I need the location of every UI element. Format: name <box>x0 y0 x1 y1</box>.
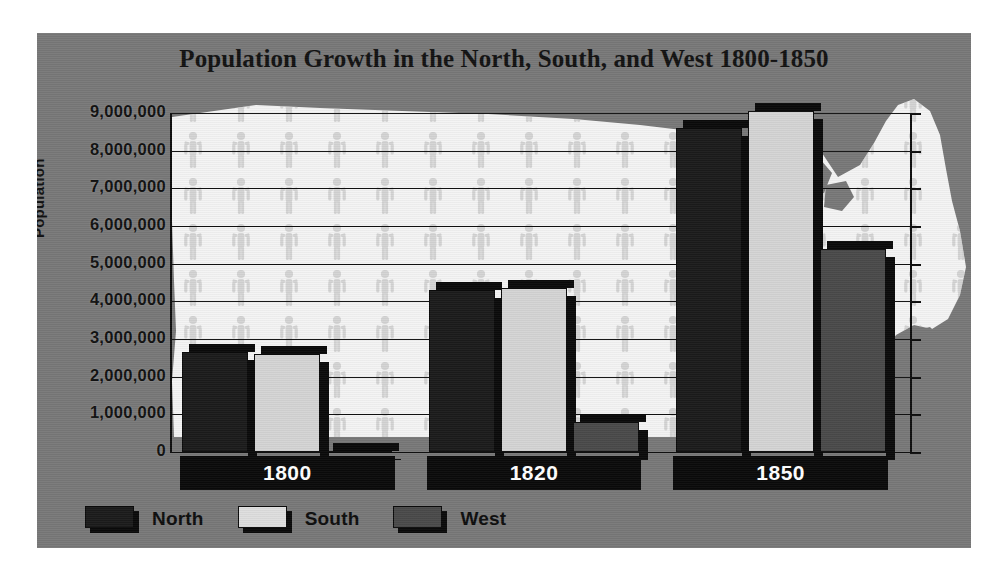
y-axis-tick-label: 0 <box>48 441 166 460</box>
bar-top-face <box>683 120 749 128</box>
y-axis-tick-label: 5,000,000 <box>48 253 166 272</box>
bar-west-1800 <box>326 451 392 452</box>
legend-item-north[interactable]: North <box>85 506 204 533</box>
bar-west-1820 <box>573 422 639 452</box>
y-axis-tick-label: 7,000,000 <box>48 177 166 196</box>
axis-tick <box>910 188 921 190</box>
legend-label: North <box>152 508 204 530</box>
south-swatch <box>238 506 292 533</box>
axis-tick <box>910 113 921 115</box>
chart-panel: Population Growth in the North, South, a… <box>37 33 971 548</box>
category-label-1820: 1820 <box>427 456 642 490</box>
bar-front-face <box>501 288 567 452</box>
bar-side-face <box>320 362 329 460</box>
bar-front-face <box>326 451 392 453</box>
west-swatch <box>393 506 447 533</box>
axis-tick <box>910 301 921 303</box>
axis-tick <box>910 377 921 379</box>
bar-front-face <box>820 249 886 452</box>
y-axis-tick-label: 3,000,000 <box>48 328 166 347</box>
north-swatch <box>85 506 139 533</box>
chart-title: Population Growth in the North, South, a… <box>37 45 971 73</box>
y-axis-tick-labels: 9,000,0008,000,0007,000,0006,000,0005,00… <box>42 113 166 452</box>
axis-tick <box>910 264 921 266</box>
bar-front-face <box>573 422 639 452</box>
y-axis-tick-label: 6,000,000 <box>48 215 166 234</box>
bar-top-face <box>580 414 646 422</box>
legend-label: South <box>305 508 360 530</box>
legend-item-west[interactable]: West <box>393 506 506 533</box>
bar-group <box>170 113 910 452</box>
bar-front-face <box>748 111 814 452</box>
bar-front-face <box>676 128 742 452</box>
bar-front-face <box>254 354 320 452</box>
bar-west-1850 <box>820 249 886 452</box>
axis-tick <box>910 339 921 341</box>
bar-north-1850 <box>676 128 742 452</box>
bar-front-face <box>182 352 248 452</box>
axis-tick <box>910 414 921 416</box>
axis-tick <box>910 151 921 153</box>
chart-page: Population Growth in the North, South, a… <box>0 0 1001 582</box>
bar-top-face <box>333 443 399 451</box>
legend-item-south[interactable]: South <box>238 506 360 533</box>
bar-top-face <box>189 344 255 352</box>
bar-top-face <box>436 282 502 290</box>
bar-south-1820 <box>501 288 567 452</box>
axis-tick <box>910 452 921 454</box>
bar-top-face <box>827 241 893 249</box>
bar-top-face <box>755 103 821 111</box>
x-axis-category-labels: 180018201850 <box>170 456 910 490</box>
bar-north-1800 <box>182 352 248 452</box>
y-axis-tick-label: 9,000,000 <box>48 102 166 121</box>
gridline <box>170 452 910 453</box>
bar-top-face <box>261 346 327 354</box>
bar-side-face <box>886 257 895 460</box>
plot-area <box>170 113 910 452</box>
bar-top-face <box>508 280 574 288</box>
legend-label: West <box>460 508 506 530</box>
y-axis-tick-label: 2,000,000 <box>48 366 166 385</box>
chart-legend: NorthSouthWest <box>85 499 540 539</box>
axis-tick <box>910 226 921 228</box>
bar-north-1820 <box>429 290 495 452</box>
y-axis-tick-label: 4,000,000 <box>48 290 166 309</box>
bar-south-1850 <box>748 111 814 452</box>
bar-south-1800 <box>254 354 320 452</box>
y-axis-tick-label: 8,000,000 <box>48 140 166 159</box>
right-axis-line <box>910 113 912 452</box>
y-axis-tick-label: 1,000,000 <box>48 403 166 422</box>
category-label-1850: 1850 <box>673 456 888 490</box>
category-label-1800: 1800 <box>180 456 395 490</box>
bar-front-face <box>429 290 495 452</box>
